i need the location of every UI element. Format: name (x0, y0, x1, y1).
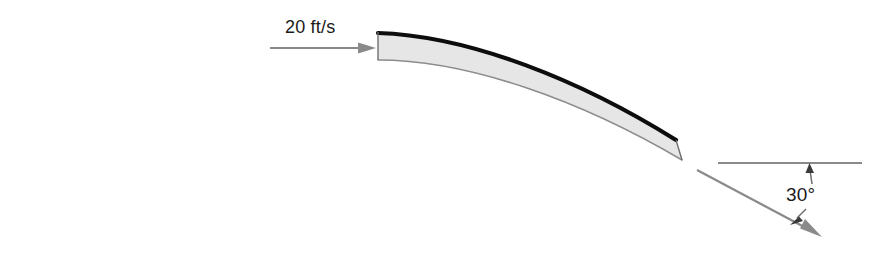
flow-diagram-figure: 20 ft/s 30° (0, 0, 881, 253)
vane-fill (378, 33, 682, 160)
inlet-velocity-label: 20 ft/s (285, 18, 335, 36)
inlet-arrow-head (358, 43, 376, 54)
diagram-canvas (0, 0, 881, 253)
curved-vane (378, 32, 682, 160)
angle-upper-arrowhead (806, 163, 815, 173)
angle-lower-leader (797, 209, 806, 218)
deflection-angle-label: 30° (786, 185, 815, 204)
outlet-arrow-head (800, 219, 822, 237)
inlet-velocity-arrow (270, 43, 376, 54)
